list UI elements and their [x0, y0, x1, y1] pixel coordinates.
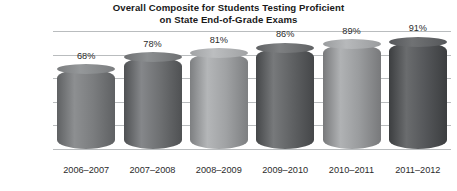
- bar-value-label: 86%: [276, 30, 294, 39]
- bar-top-cap: [124, 52, 182, 62]
- bar: [124, 57, 182, 149]
- bar-value-label: 81%: [210, 36, 228, 45]
- bar-group: 89%: [323, 31, 381, 149]
- gridline: [53, 149, 451, 150]
- x-axis-tick-label: 2011–2012: [385, 165, 451, 175]
- chart-title-line-2: on State End-of-Grade Exams: [0, 14, 457, 26]
- bar-chart: Overall Composite for Students Testing P…: [0, 0, 457, 191]
- bar-top-cap: [256, 43, 314, 53]
- plot-area: 0%20%40%60%80%100% 68%78%81%86%89%91%: [53, 31, 451, 149]
- bar-value-label: 68%: [77, 52, 95, 61]
- bar-group: 81%: [190, 31, 248, 149]
- bar-top-cap: [57, 64, 115, 74]
- bar: [389, 42, 447, 149]
- bar-value-label: 91%: [409, 24, 427, 33]
- bar-group: 91%: [389, 31, 447, 149]
- bar-top-cap: [389, 37, 447, 47]
- bar: [190, 53, 248, 149]
- bar-top-cap: [323, 39, 381, 49]
- bar-top-cap: [190, 48, 248, 58]
- bar: [323, 44, 381, 149]
- bars-layer: 68%78%81%86%89%91%: [53, 31, 451, 149]
- chart-title: Overall Composite for Students Testing P…: [0, 2, 457, 25]
- x-axis-tick-label: 2007–2008: [119, 165, 185, 175]
- x-axis-tick-label: 2006–2007: [53, 165, 119, 175]
- bar: [256, 48, 314, 149]
- bar: [57, 69, 115, 149]
- x-axis-tick-label: 2010–2011: [318, 165, 384, 175]
- chart-title-line-1: Overall Composite for Students Testing P…: [0, 2, 457, 14]
- bar-group: 78%: [124, 31, 182, 149]
- bar-value-label: 78%: [143, 40, 161, 49]
- x-axis-tick-label: 2008–2009: [186, 165, 252, 175]
- x-axis-tick-labels: 2006–20072007–20082008–20092009–20102010…: [53, 165, 451, 179]
- bar-group: 86%: [256, 31, 314, 149]
- bar-group: 68%: [57, 31, 115, 149]
- x-axis-tick-label: 2009–2010: [252, 165, 318, 175]
- bar-value-label: 89%: [342, 27, 360, 36]
